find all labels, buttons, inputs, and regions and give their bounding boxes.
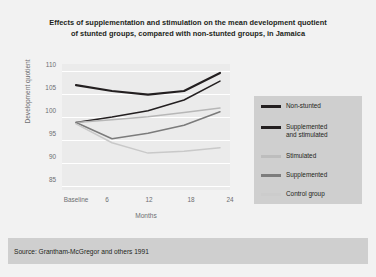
chart-figure: Effects of supplementation and stimulati… [0,0,376,277]
legend-item-stimulated[interactable]: Stimulated [261,152,316,160]
x-tick-label-6: 6 [90,196,124,203]
legend-item-label: Supplemented [286,171,327,179]
y-tick-label-85: 85 [30,176,56,183]
series-lines [62,64,230,190]
series-line-control-group [76,124,220,153]
legend-item-control-group[interactable]: Control group [261,190,325,198]
legend-swatch-icon [261,155,281,158]
legend-swatch-icon [261,193,281,196]
legend-item-non-stunted[interactable]: Non-stunted [261,102,321,110]
y-tick-label-105: 105 [30,84,56,91]
legend-item-label: Stimulated [286,152,316,160]
y-tick-label-90: 90 [30,153,56,160]
legend-swatch-icon [261,126,281,129]
chart-title: Effects of supplementation and stimulati… [0,18,376,39]
legend-item-label: Supplemented and stimulated [286,123,328,139]
legend-swatch-icon [261,105,281,108]
x-tick-label-18: 18 [174,196,208,203]
x-axis-title: Months [62,212,230,219]
legend-item-label: Non-stunted [286,102,321,110]
legend-item-label: Control group [286,190,325,198]
legend-swatch-icon [261,174,281,177]
chart-title-line-2: of stunted groups, compared with non-stu… [0,29,376,40]
y-tick-label-100: 100 [30,107,56,114]
chart-title-line-1: Effects of supplementation and stimulati… [0,18,376,29]
y-tick-label-110: 110 [30,61,56,68]
source-text: Source: Grantham-McGregor and others 199… [14,248,149,255]
x-tick-label-12: 12 [132,196,166,203]
legend-item-supplemented[interactable]: Supplemented [261,171,327,179]
x-tick-label-24: 24 [213,196,247,203]
chart-legend: Non-stuntedSupplemented and stimulatedSt… [254,96,362,204]
plot-area [62,64,230,190]
legend-item-supplemented-and-stimulated[interactable]: Supplemented and stimulated [261,123,328,139]
y-tick-label-95: 95 [30,130,56,137]
series-line-non-stunted [76,73,220,95]
